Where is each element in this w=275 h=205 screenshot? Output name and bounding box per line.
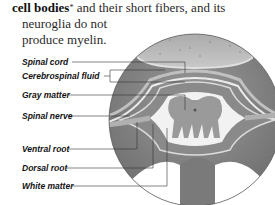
label-cerebrospinal-fluid: Cerebrospinal fluid [22, 71, 99, 81]
label-spinal-cord: Spinal cord [22, 57, 68, 67]
magnified-circle [100, 30, 275, 205]
label-white-matter: White matter [22, 181, 73, 191]
label-ventral-root: Ventral root [22, 144, 69, 154]
label-dorsal-root: Dorsal root [22, 163, 67, 173]
spinal-cord-cross-section-illustration [0, 0, 275, 205]
label-spinal-nerve: Spinal nerve [22, 111, 73, 121]
label-gray-matter: Gray matter [22, 90, 70, 100]
